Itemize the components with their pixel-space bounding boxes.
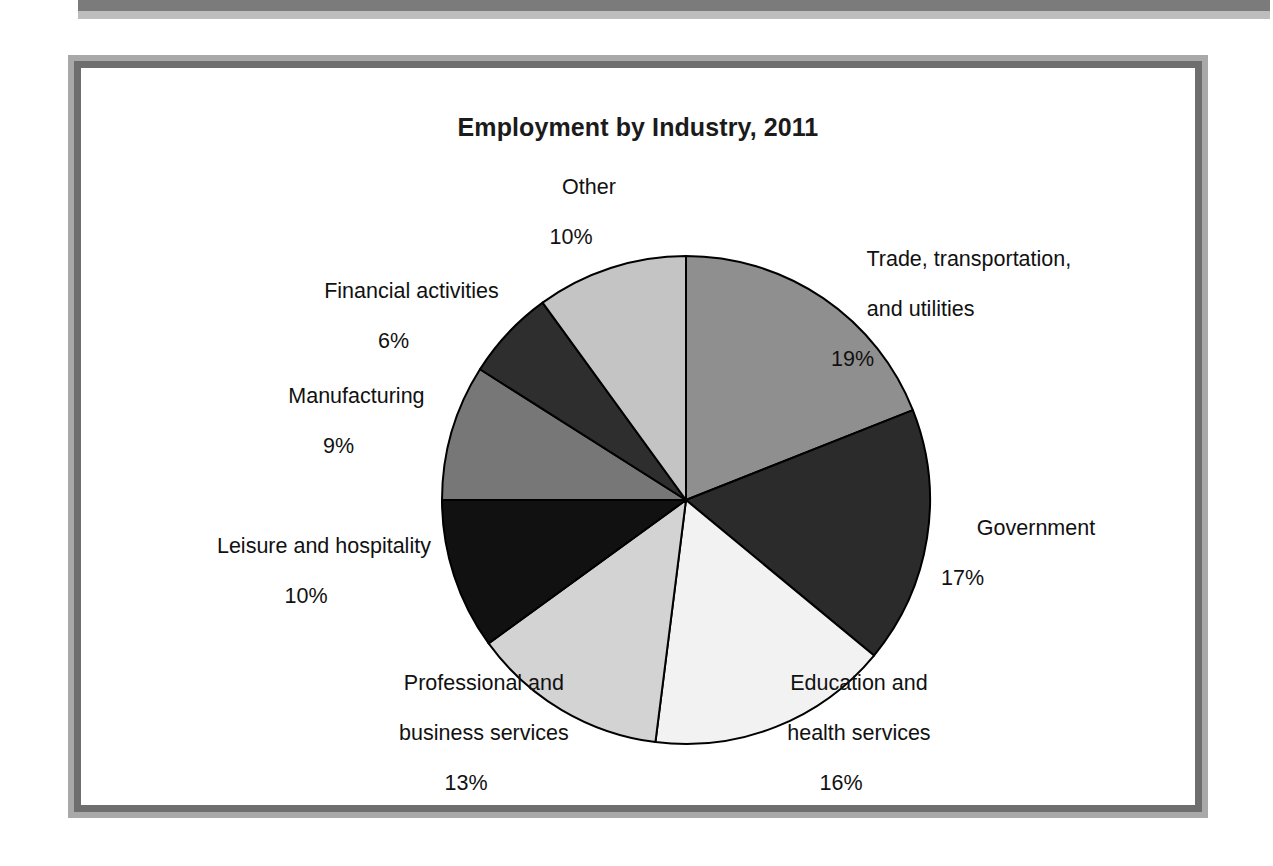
pie-label-other: Other 10% [471,150,671,300]
pie-label-education-percent: 16% [731,771,951,796]
page-top-scan-bar [78,0,1270,11]
pie-label-financial-percent: 6% [271,329,516,354]
figure-frame: Employment by Industry, 2011 Trade, tran… [68,55,1208,818]
pie-label-trade-line1: Trade, transportation, [866,247,1071,271]
pie-label-other-percent: 10% [471,225,671,250]
pie-label-professional-business-services: Professional and business services 13% [341,646,591,846]
pie-label-professional-line2: business services [399,721,569,745]
page-top-scan-bar-shadow [78,11,1270,19]
pie-slice: Government 17% [686,410,930,655]
page-title: Employment by Industry, 2011 [81,113,1195,142]
pie-label-leisure-text: Leisure and hospitality [217,534,431,558]
pie-label-trade-line2: and utilities [867,297,975,321]
pie-label-leisure-percent: 10% [161,584,451,609]
pie-label-trade-transportation-utilities: Trade, transportation, and utilities 19% [831,222,1071,422]
pie-label-government-percent: 17% [941,566,1095,591]
figure-plate: Employment by Industry, 2011 Trade, tran… [81,68,1195,805]
pie-label-education-line2: health services [787,721,930,745]
pie-label-other-text: Other [562,175,616,199]
pie-label-education-line1: Education and [790,671,927,695]
pie-slice: Leisure and hospitality 10% [442,500,686,643]
pie-label-professional-line1: Professional and [404,671,564,695]
pie-label-trade-percent: 19% [831,347,1071,372]
pie-label-professional-percent: 13% [341,771,591,796]
pie-label-education-health-services: Education and health services 16% [731,646,951,846]
pie-label-leisure-hospitality: Leisure and hospitality 10% [161,509,451,659]
pie-label-government: Government 17% [941,491,1095,641]
pie-label-manufacturing-percent: 9% [226,434,451,459]
pie-label-government-text: Government [977,516,1095,540]
